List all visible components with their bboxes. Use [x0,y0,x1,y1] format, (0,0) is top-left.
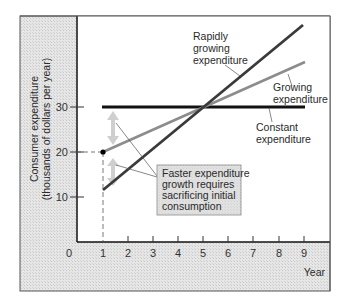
svg-text:expenditure: expenditure [256,133,311,145]
svg-text:7: 7 [250,247,256,259]
svg-text:30: 30 [56,101,68,113]
svg-text:6: 6 [225,247,231,259]
y-axis-label: Consumer expenditure (thousands of dolla… [28,58,52,200]
x-axis-label: Year [304,266,326,278]
svg-text:Growing: Growing [273,81,312,93]
svg-text:consumption: consumption [162,200,222,212]
svg-text:0: 0 [66,247,72,259]
svg-text:5: 5 [200,247,206,259]
svg-text:3: 3 [150,247,156,259]
svg-text:4: 4 [175,247,181,259]
svg-text:expenditure: expenditure [273,93,328,105]
svg-text:growing: growing [193,42,230,54]
svg-text:Constant: Constant [256,121,298,133]
start-point-marker [100,149,105,154]
svg-text:20: 20 [56,146,68,158]
svg-text:1: 1 [100,247,106,259]
svg-text:10: 10 [56,191,68,203]
svg-text:Consumer expenditure: Consumer expenditure [28,76,40,182]
svg-text:Rapidly: Rapidly [193,30,229,42]
svg-text:9: 9 [301,247,307,259]
svg-text:(thousands of dollars per year: (thousands of dollars per year) [40,58,52,200]
chart: 30 20 10 0 1 2 3 4 5 6 7 8 9 Year Consum… [0,0,349,305]
svg-text:8: 8 [276,247,282,259]
svg-text:2: 2 [125,247,131,259]
annotation-callout: Faster expenditure growth requires sacri… [157,165,250,215]
svg-text:expenditure: expenditure [193,54,248,66]
